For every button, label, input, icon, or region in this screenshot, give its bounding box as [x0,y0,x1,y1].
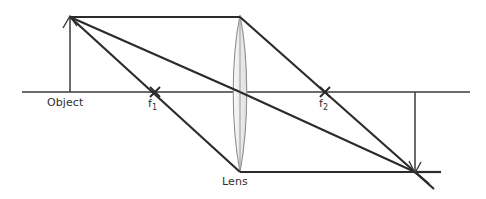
f1-subscript: 1 [152,103,157,112]
f2-subscript: 2 [323,103,328,112]
focal-point-f2-label: f2 [319,98,328,112]
ray-overshoot-diagonal [415,172,429,184]
ray-focal-incident [70,17,240,172]
lens-label: Lens [222,176,248,187]
object-label: Object [47,97,83,108]
lens-ray-diagram: Object f1 f2 Lens [0,0,486,199]
focal-point-f1-label: f1 [148,98,157,112]
ray-center-incident [70,17,240,92]
